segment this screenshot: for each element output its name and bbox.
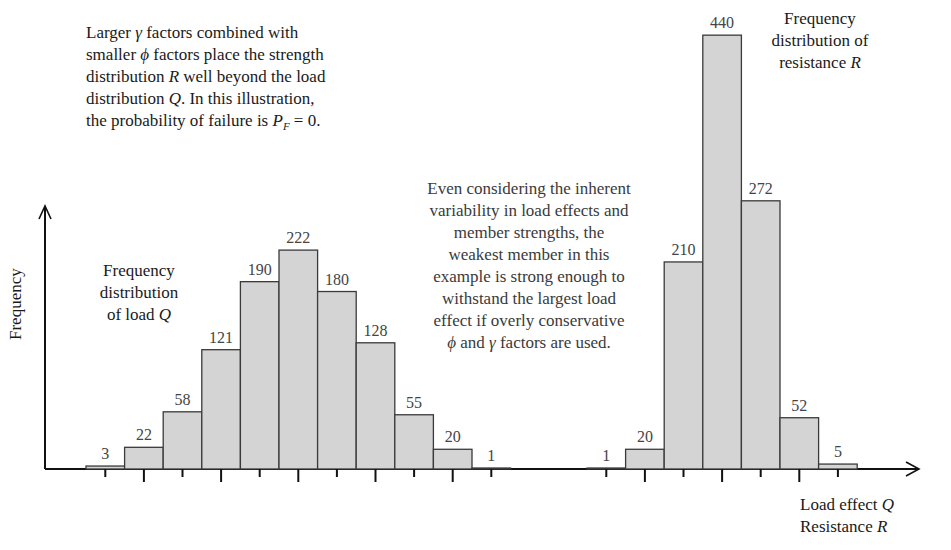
resist-label-line-2: distribution of <box>760 30 880 52</box>
note1-line-4: distribution Q. In this illustration, <box>86 88 325 110</box>
histogram-bar <box>703 35 742 469</box>
bar-value-label: 20 <box>428 428 478 446</box>
bar-value-label: 190 <box>235 261 285 279</box>
resist-label-line-3: resistance R <box>760 52 880 74</box>
bar-value-label: 58 <box>158 391 208 409</box>
note2-line-7: effect if overly conservative <box>398 310 660 332</box>
bar-value-label: 5 <box>813 443 863 461</box>
histogram-bar <box>318 292 357 469</box>
histogram-bar <box>202 350 241 469</box>
bar-value-label: 128 <box>351 322 401 340</box>
bar-value-label: 121 <box>196 329 246 347</box>
histogram-bar <box>472 468 511 469</box>
note2-line-3: member strengths, the <box>398 222 660 244</box>
bar-value-label: 52 <box>774 397 824 415</box>
bar-value-label: 55 <box>389 394 439 412</box>
histogram-bar <box>86 466 125 469</box>
load-label-line-3: of load Q <box>84 304 194 326</box>
load-distribution-label: Frequency distribution of load Q <box>84 260 194 326</box>
note1-line-2: smaller ϕ factors place the strength <box>86 44 325 66</box>
bar-value-label: 222 <box>273 229 323 247</box>
note2-line-4: weakest member in this <box>398 244 660 266</box>
histogram-bar <box>240 282 279 469</box>
load-label-line-1: Frequency <box>84 260 194 282</box>
resistance-distribution-label: Frequency distribution of resistance R <box>760 8 880 74</box>
histogram-bar <box>587 468 626 469</box>
load-label-line-2: distribution <box>84 282 194 304</box>
y-axis-label: Frequency <box>6 268 26 340</box>
resist-label-line-1: Frequency <box>760 8 880 30</box>
note1-line-5: the probability of failure is PF = 0. <box>86 110 325 137</box>
annotation-conservative-factors: Even considering the inherent variabilit… <box>398 178 660 354</box>
bar-value-label: 440 <box>697 14 747 32</box>
note1-line-1: Larger γ factors combined with <box>86 22 325 44</box>
bar-value-label: 1 <box>466 447 516 465</box>
note2-line-5: example is strong enough to <box>398 266 660 288</box>
bar-value-label: 1 <box>581 447 631 465</box>
bar-value-label: 20 <box>620 428 670 446</box>
histogram-bar <box>741 201 780 469</box>
bar-value-label: 210 <box>659 241 709 259</box>
note2-line-6: withstand the largest load <box>398 288 660 310</box>
x-axis-label-resistance: Resistance R <box>800 516 894 538</box>
x-axis-label: Load effect Q Resistance R <box>800 494 894 538</box>
bar-value-label: 3 <box>80 445 130 463</box>
note2-line-8: ϕ and γ factors are used. <box>398 332 660 354</box>
note2-line-2: variability in load effects and <box>398 200 660 222</box>
note2-line-1: Even considering the inherent <box>398 178 660 200</box>
histogram-bar <box>819 464 858 469</box>
bar-value-label: 272 <box>736 180 786 198</box>
x-axis-label-load: Load effect Q <box>800 494 894 516</box>
histogram-bar <box>163 412 202 469</box>
histogram-bar <box>626 449 665 469</box>
note1-line-3: distribution R well beyond the load <box>86 66 325 88</box>
bar-value-label: 180 <box>312 271 362 289</box>
histogram-bar <box>125 447 164 469</box>
bar-value-label: 22 <box>119 426 169 444</box>
annotation-failure-probability: Larger γ factors combined with smaller ϕ… <box>86 22 325 137</box>
histogram-bar <box>664 262 703 469</box>
